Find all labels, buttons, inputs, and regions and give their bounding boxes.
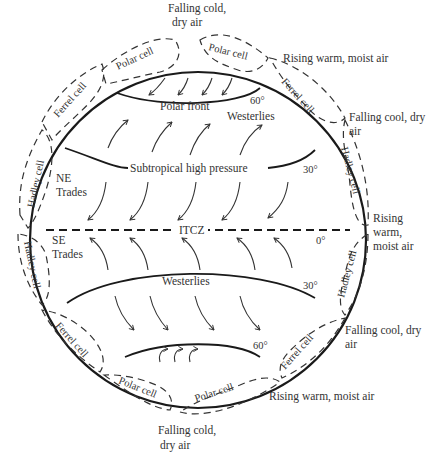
cell-label-hadley-ne: Hadley cell — [339, 146, 362, 195]
subtropical-high-line-north — [65, 148, 128, 168]
annot-ne-rising: Rising warm, moist air — [283, 52, 389, 65]
westerly-arrows-south — [115, 296, 260, 330]
label-30-north: 30° — [303, 164, 318, 175]
cell-label-hadley-nw: Hadley cell — [25, 159, 46, 208]
annot-se-falling-1: Falling cool, dry — [345, 324, 422, 337]
annot-top-falling-2: dry air — [172, 16, 203, 29]
annot-eq-rising-3: moist air — [373, 240, 414, 252]
label-30-south: 30° — [303, 280, 318, 291]
label-westerlies-south: Westerlies — [162, 275, 210, 287]
label-polar-front: Polar front — [160, 100, 210, 112]
annot-se-rising: Rising warm, moist air — [269, 390, 375, 403]
circulation-diagram: Polar cell Polar cell Ferrel cell Ferrel… — [0, 0, 431, 457]
label-se-trades-2: Trades — [52, 248, 83, 260]
annot-bottom-falling-1: Falling cold, — [158, 424, 216, 437]
polar-easterly-arrows-north — [149, 78, 232, 95]
polar-easterly-arrows-south — [159, 349, 198, 362]
label-60-north: 60° — [250, 95, 265, 106]
label-equator: 0° — [316, 235, 325, 246]
ne-trade-arrows — [88, 182, 288, 220]
cell-label-polar-se: Polar cell — [193, 381, 234, 404]
cell-label-ferrel-nw: Ferrel cell — [51, 80, 88, 119]
cell-label-hadley-sw: Hadley cell — [22, 240, 43, 289]
cell-label-ferrel-sw: Ferrel cell — [54, 320, 91, 359]
se-trade-arrows — [90, 238, 292, 270]
label-ne-trades-1: NE — [56, 172, 71, 184]
annot-bottom-falling-2: dry air — [160, 439, 191, 452]
annot-eq-rising-1: Rising — [373, 212, 403, 225]
cell-label-hadley-se: Hadley cell — [335, 249, 358, 298]
label-60-south: 60° — [253, 340, 268, 351]
label-itcz: ITCZ — [179, 224, 205, 236]
label-subtropical-high: Subtropical high pressure — [130, 162, 248, 175]
annot-top-falling-1: Falling cold, — [168, 2, 226, 15]
label-se-trades-1: SE — [52, 234, 65, 246]
annot-eq-rising-2: warm, — [373, 226, 402, 239]
label-ne-trades-2: Trades — [56, 186, 87, 198]
label-westerlies-north: Westerlies — [227, 110, 275, 122]
annot-ne-falling-2: air — [349, 125, 361, 137]
annot-ne-falling-1: Falling cool, dry — [349, 111, 426, 124]
westerly-arrows-north — [108, 120, 262, 155]
cell-label-polar-nw: Polar cell — [114, 45, 155, 72]
annot-se-falling-2: air — [345, 338, 357, 350]
